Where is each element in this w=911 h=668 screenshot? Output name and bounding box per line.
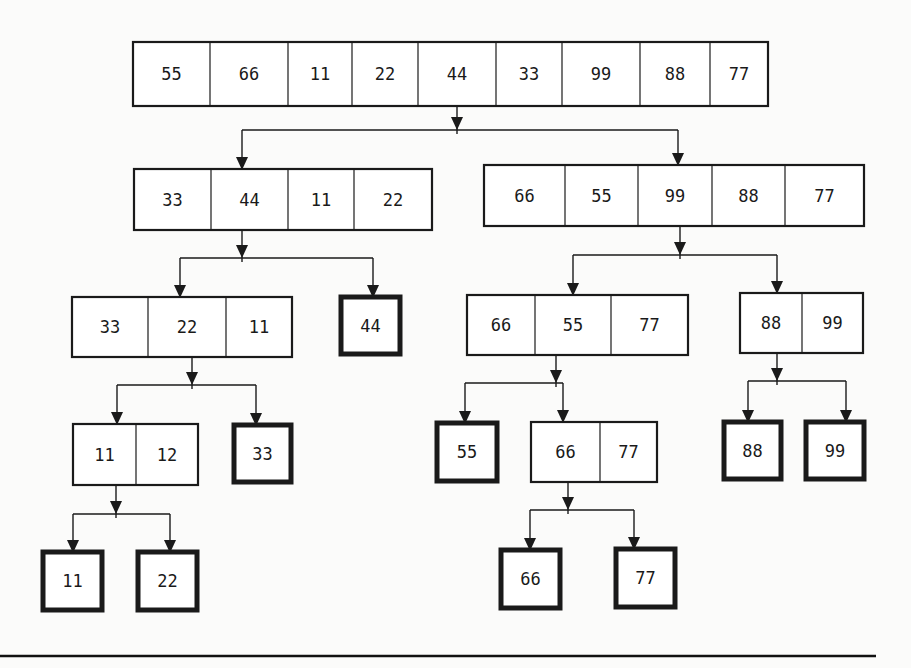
split-connector — [67, 485, 176, 553]
cell-value: 99 — [822, 313, 842, 333]
cell-value: 77 — [618, 442, 638, 462]
cell-value: 33 — [100, 317, 120, 337]
split-connector — [524, 482, 640, 551]
cell-value: 44 — [239, 190, 259, 210]
arrowhead-icon — [236, 245, 248, 258]
single-element-node: 55 — [437, 423, 497, 481]
cell-value: 33 — [162, 190, 182, 210]
split-connector — [236, 106, 684, 170]
cell-value: 33 — [252, 444, 272, 464]
cell-value: 11 — [94, 445, 114, 465]
array-node: 6655998877 — [484, 165, 864, 226]
cell-value: 77 — [639, 315, 659, 335]
cell-value: 88 — [742, 441, 762, 461]
merge-sort-diagram: 5566112244339988773344112266559988773322… — [0, 0, 911, 668]
cell-value: 88 — [665, 64, 685, 84]
cell-value: 33 — [519, 64, 539, 84]
single-element-node: 44 — [341, 297, 400, 354]
cell-value: 88 — [761, 313, 781, 333]
cell-value: 22 — [157, 571, 177, 591]
cell-value: 77 — [729, 64, 749, 84]
array-node: 33441122 — [134, 169, 432, 230]
arrowhead-icon — [550, 370, 562, 383]
split-connector — [459, 355, 569, 424]
array-node: 665577 — [467, 295, 688, 355]
arrowhead-icon — [674, 242, 686, 255]
cell-value: 66 — [239, 64, 259, 84]
cell-value: 66 — [491, 315, 511, 335]
array-node: 332211 — [72, 297, 292, 357]
single-element-node: 22 — [138, 552, 197, 610]
array-nodes: 5566112244339988773344112266559988773322… — [43, 42, 864, 610]
single-element-node: 33 — [234, 425, 291, 482]
cell-value: 55 — [457, 442, 477, 462]
single-element-node: 66 — [501, 550, 560, 608]
cell-value: 99 — [825, 441, 845, 461]
arrowhead-icon — [451, 117, 463, 130]
cell-value: 66 — [520, 569, 540, 589]
cell-value: 22 — [177, 317, 197, 337]
single-element-node: 99 — [806, 422, 864, 479]
cell-value: 11 — [62, 571, 82, 591]
split-connector — [111, 357, 262, 426]
cell-value: 99 — [665, 186, 685, 206]
cell-value: 44 — [447, 64, 467, 84]
cell-value: 11 — [310, 64, 330, 84]
cell-value: 12 — [157, 445, 177, 465]
cell-value: 66 — [555, 442, 575, 462]
array-node: 556611224433998877 — [133, 42, 768, 106]
cell-value: 22 — [375, 64, 395, 84]
arrowhead-icon — [562, 497, 574, 510]
arrowhead-icon — [186, 372, 198, 385]
cell-value: 99 — [591, 64, 611, 84]
array-node: 6677 — [531, 422, 657, 482]
cell-value: 11 — [311, 190, 331, 210]
array-node: 8899 — [740, 293, 863, 353]
cell-value: 66 — [514, 186, 534, 206]
cell-value: 77 — [635, 568, 655, 588]
cell-value: 88 — [738, 186, 758, 206]
cell-value: 55 — [563, 315, 583, 335]
cell-value: 77 — [814, 186, 834, 206]
cell-value: 11 — [249, 317, 269, 337]
split-connector — [174, 230, 379, 298]
cell-value: 44 — [360, 316, 380, 336]
single-element-node: 11 — [43, 552, 102, 610]
split-connector — [742, 353, 852, 423]
arrowhead-icon — [110, 501, 122, 514]
cell-value: 55 — [161, 64, 181, 84]
split-connector — [567, 226, 783, 296]
single-element-node: 88 — [724, 422, 781, 479]
single-element-node: 77 — [616, 549, 675, 607]
arrowhead-icon — [771, 368, 783, 381]
cell-value: 55 — [591, 186, 611, 206]
array-node: 1112 — [73, 424, 198, 485]
cell-value: 22 — [383, 190, 403, 210]
